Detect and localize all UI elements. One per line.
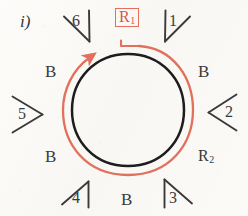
inner-ring: [72, 54, 184, 166]
region-label-r2-subscript: 2: [209, 154, 214, 165]
marker-1-stroke-a: [165, 11, 166, 42]
figure-index-label: i): [20, 13, 30, 30]
boundary-label-bottom: B: [121, 191, 133, 208]
figure-canvas: i) R1 R2 B B B B 6 1 2 5 3 4: [0, 0, 248, 216]
marker-6-stroke-a: [89, 11, 90, 42]
region-label-r1-subscript: 1: [130, 15, 135, 26]
region-label-r1-base: R: [119, 8, 130, 25]
angle-marker-3-label: 3: [169, 190, 177, 206]
boundary-label-top-left: B: [45, 63, 57, 80]
outer-ring-arrow: [63, 41, 193, 176]
boundary-label-top-right: B: [198, 63, 210, 80]
angle-marker-6-label: 6: [72, 13, 80, 29]
ring-diagram-svg: [0, 0, 248, 216]
region-label-r2-base: R: [198, 147, 209, 164]
angle-marker-2-label: 2: [225, 104, 233, 120]
angle-marker-1-label: 1: [169, 13, 177, 29]
region-label-r1: R1: [115, 8, 139, 27]
angle-marker-strokes: [13, 11, 237, 208]
region-label-r2: R2: [198, 148, 214, 164]
angle-marker-5-label: 5: [18, 106, 26, 122]
angle-marker-4-label: 4: [72, 190, 80, 206]
marker-5-stroke-a: [13, 97, 43, 115]
boundary-label-bottom-left: B: [45, 148, 57, 165]
marker-5-stroke-b: [13, 115, 43, 133]
